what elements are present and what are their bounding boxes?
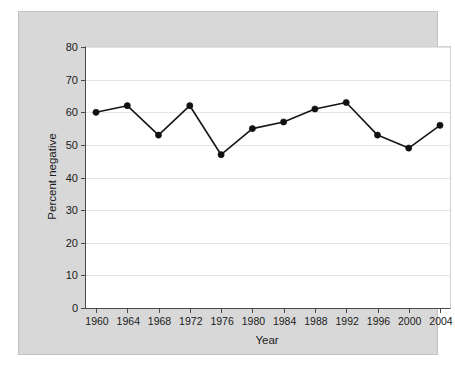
- y-tick-40: 40: [81, 178, 86, 179]
- y-tick-label-80: 80: [66, 41, 78, 54]
- chart-panel: 01020304050607080 1960196419681972197619…: [18, 11, 438, 355]
- data-point-1980: [249, 126, 255, 132]
- x-tick-label-1980: 1980: [242, 315, 265, 327]
- x-tick-1972: 1972: [190, 308, 191, 313]
- series-line-percent-negative: [96, 103, 440, 155]
- y-tick-label-70: 70: [66, 74, 78, 87]
- data-point-2004: [437, 122, 443, 128]
- series-layer: [86, 47, 450, 308]
- y-tick-label-40: 40: [66, 172, 78, 185]
- x-tick-label-1964: 1964: [117, 315, 140, 327]
- x-tick-1996: 1996: [378, 308, 379, 313]
- y-tick-label-0: 0: [72, 302, 78, 315]
- x-tick-1968: 1968: [159, 308, 160, 313]
- y-tick-20: 20: [81, 243, 86, 244]
- x-tick-label-1988: 1988: [304, 315, 327, 327]
- y-tick-label-20: 20: [66, 237, 78, 250]
- y-tick-label-50: 50: [66, 139, 78, 152]
- x-tick-label-1996: 1996: [367, 315, 390, 327]
- x-tick-1980: 1980: [252, 308, 253, 313]
- figure: 01020304050607080 1960196419681972197619…: [0, 0, 455, 371]
- data-point-1968: [155, 132, 161, 138]
- x-tick-label-1984: 1984: [273, 315, 296, 327]
- x-tick-1976: 1976: [221, 308, 222, 313]
- y-tick-10: 10: [81, 275, 86, 276]
- plot-area: 01020304050607080 1960196419681972197619…: [85, 46, 451, 309]
- data-point-1984: [281, 119, 287, 125]
- data-point-1972: [187, 103, 193, 109]
- data-point-1996: [374, 132, 380, 138]
- y-tick-50: 50: [81, 145, 86, 146]
- x-tick-label-1960: 1960: [85, 315, 108, 327]
- data-point-1988: [312, 106, 318, 112]
- y-tick-70: 70: [81, 80, 86, 81]
- y-tick-label-60: 60: [66, 106, 78, 119]
- x-tick-label-1992: 1992: [336, 315, 359, 327]
- data-point-1960: [93, 109, 99, 115]
- x-tick-label-2004: 2004: [429, 315, 452, 327]
- y-tick-60: 60: [81, 112, 86, 113]
- x-tick-label-1976: 1976: [210, 315, 233, 327]
- x-tick-1988: 1988: [315, 308, 316, 313]
- x-tick-1992: 1992: [346, 308, 347, 313]
- x-tick-1984: 1984: [284, 308, 285, 313]
- x-tick-label-2000: 2000: [398, 315, 421, 327]
- x-tick-1964: 1964: [127, 308, 128, 313]
- y-tick-label-30: 30: [66, 204, 78, 217]
- x-tick-2004: 2004: [440, 308, 441, 313]
- y-tick-0: 0: [81, 308, 86, 309]
- series-markers: [93, 99, 443, 157]
- y-tick-30: 30: [81, 210, 86, 211]
- x-tick-1960: 1960: [96, 308, 97, 313]
- data-point-1976: [218, 152, 224, 158]
- x-tick-2000: 2000: [409, 308, 410, 313]
- data-point-2000: [406, 145, 412, 151]
- x-axis-title: Year: [85, 333, 449, 347]
- data-point-1964: [124, 103, 130, 109]
- data-point-1992: [343, 99, 349, 105]
- x-tick-label-1968: 1968: [148, 315, 171, 327]
- y-tick-label-10: 10: [66, 269, 78, 282]
- y-axis-title: Percent negative: [45, 46, 59, 307]
- x-tick-label-1972: 1972: [179, 315, 202, 327]
- y-tick-80: 80: [81, 47, 86, 48]
